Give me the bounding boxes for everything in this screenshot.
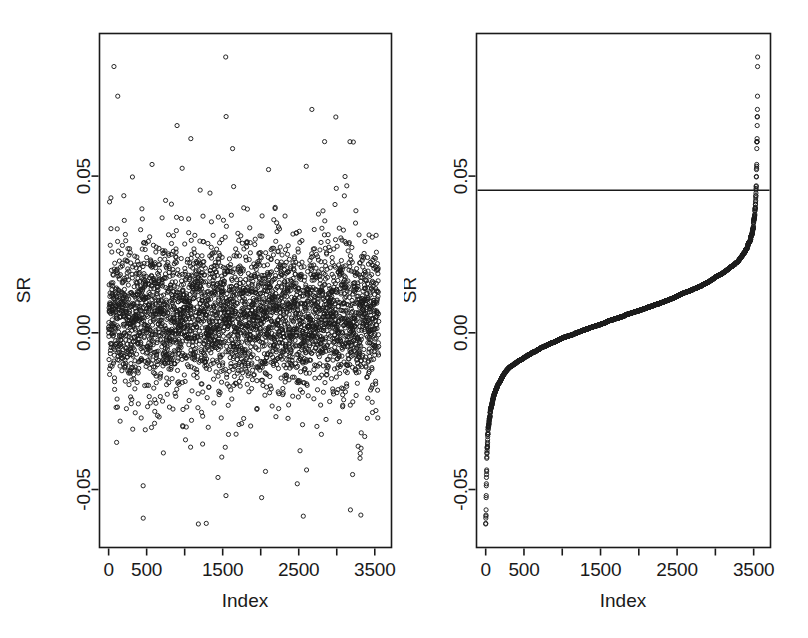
right-y-axis: -0.050.000.05 (450, 158, 475, 511)
svg-text:0.00: 0.00 (450, 315, 471, 351)
left-x-axis: 0500150025003500 (103, 549, 395, 580)
left-panel-canvas: 0500150025003500 -0.050.000.05 Index SR (0, 0, 404, 638)
svg-text:0: 0 (103, 559, 113, 580)
svg-text:500: 500 (508, 559, 539, 580)
right-x-axis: 0500150025003500 (481, 549, 775, 580)
right-y-axis-title: SR (404, 277, 420, 303)
svg-text:-0.05: -0.05 (450, 468, 471, 510)
right-data-points (484, 55, 760, 526)
left-y-axis: -0.050.000.05 (73, 158, 98, 511)
svg-text:1500: 1500 (202, 559, 243, 580)
left-x-axis-title: Index (222, 590, 269, 611)
svg-text:0: 0 (481, 559, 491, 580)
svg-text:3500: 3500 (354, 559, 395, 580)
right-panel-canvas: 0500150025003500 -0.050.000.05 Index SR (404, 0, 808, 638)
svg-text:-0.05: -0.05 (73, 468, 94, 510)
svg-text:0.00: 0.00 (73, 315, 94, 351)
right-panel: 0500150025003500 -0.050.000.05 Index SR (404, 0, 808, 638)
svg-text:3500: 3500 (733, 559, 774, 580)
scatter-plot-figure: 0500150025003500 -0.050.000.05 Index SR … (0, 0, 808, 638)
left-y-axis-title: SR (13, 277, 34, 303)
svg-text:0.05: 0.05 (450, 158, 471, 194)
svg-text:500: 500 (131, 559, 162, 580)
svg-text:1500: 1500 (580, 559, 621, 580)
right-x-axis-title: Index (600, 590, 647, 611)
svg-text:2500: 2500 (278, 559, 319, 580)
svg-text:2500: 2500 (656, 559, 697, 580)
right-plot-frame (477, 34, 771, 548)
svg-text:0.05: 0.05 (73, 158, 94, 194)
left-data-points (107, 55, 381, 526)
left-panel: 0500150025003500 -0.050.000.05 Index SR (0, 0, 404, 638)
